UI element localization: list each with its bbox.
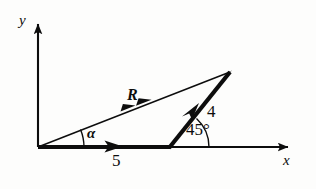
- vector-5-magnitude-label: 5: [112, 152, 121, 169]
- vector-diagram-figure: y x R 4 5 α 45°: [0, 0, 316, 189]
- angle-alpha-label: α: [87, 126, 95, 141]
- vector-5: [38, 141, 170, 153]
- vector-4-magnitude-label: 4: [207, 103, 216, 120]
- angle-alpha-arc: [81, 130, 85, 148]
- x-axis-label: x: [283, 153, 290, 168]
- angle-45-label: 45°: [186, 121, 210, 138]
- diagram-canvas: [0, 0, 316, 189]
- y-axis-label: y: [19, 13, 26, 28]
- resultant-label: R: [127, 87, 138, 103]
- resultant-arrowhead-2: [136, 98, 152, 106]
